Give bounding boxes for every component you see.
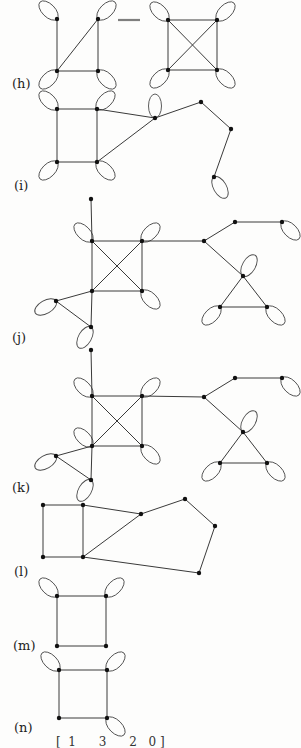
- graph-vertex: [41, 503, 45, 507]
- graph-edge: [155, 102, 201, 118]
- graph-vertex: [153, 116, 157, 120]
- graph-vertex: [215, 68, 219, 72]
- graph-vertex: [218, 305, 222, 309]
- graph-vertex: [265, 305, 269, 309]
- graph-edge: [83, 557, 199, 573]
- loop-edge: [73, 324, 96, 351]
- graph-vertex: [166, 68, 170, 72]
- graph-vertex: [55, 69, 59, 73]
- graph-vertex: [233, 376, 237, 380]
- graph-edge: [201, 102, 231, 129]
- graph-vertex: [218, 461, 222, 465]
- graph-vertex: [57, 668, 61, 672]
- graph-edge: [220, 432, 243, 463]
- graph-edge: [220, 276, 243, 307]
- graph-vertex: [55, 644, 59, 648]
- graph-edge: [91, 291, 92, 327]
- graph-vertex: [96, 69, 100, 73]
- graph-vertex: [104, 594, 108, 598]
- graph-vertex: [241, 430, 245, 434]
- graph-edge: [97, 118, 155, 162]
- graph-vertex: [202, 395, 206, 399]
- loop-edge: [32, 450, 59, 473]
- loop-edge: [208, 174, 231, 201]
- graph-i: [35, 87, 233, 201]
- graph-k: [32, 348, 301, 504]
- graph-vertex: [89, 197, 93, 201]
- graph-edge: [56, 291, 92, 301]
- graph-vertex: [89, 348, 93, 352]
- graph-vertex: [213, 524, 217, 528]
- graph-vertex: [229, 127, 233, 131]
- graph-m: [35, 574, 127, 648]
- graph-n: [37, 648, 128, 739]
- graph-j: [32, 197, 301, 351]
- textbook-page: (h) (i) (j) (k) (l) (m) (n) [ 1 3 2 0 ]: [0, 0, 301, 748]
- graph-vertex: [280, 376, 284, 380]
- graph-vertex: [280, 220, 284, 224]
- graph-edge: [91, 350, 92, 396]
- graph-vertex: [81, 555, 85, 559]
- graph-vertex: [55, 594, 59, 598]
- graph-edge: [56, 301, 91, 327]
- graph-edge: [56, 446, 92, 456]
- graph-vertex: [89, 478, 93, 482]
- graph-edge: [141, 499, 185, 514]
- graph-vertex: [90, 289, 94, 293]
- graph-vertex: [104, 644, 108, 648]
- graph-edge: [204, 378, 235, 397]
- figure-label-l: (l): [14, 564, 28, 579]
- figure-label-m: (m): [13, 638, 35, 653]
- figure-label-k: (k): [12, 480, 30, 495]
- graph-edge: [83, 514, 141, 557]
- graph-vertex: [55, 107, 59, 111]
- graph-vertex: [140, 289, 144, 293]
- graph-edge: [243, 432, 267, 463]
- graph-edge: [97, 109, 155, 118]
- graph-vertex: [81, 503, 85, 507]
- graph-vertex: [197, 571, 201, 575]
- graph-vertex: [215, 18, 219, 22]
- graph-vertex: [241, 274, 245, 278]
- graph-vertex: [265, 461, 269, 465]
- graph-vertex: [105, 668, 109, 672]
- graph-vertex: [96, 17, 100, 21]
- graph-vertex: [105, 716, 109, 720]
- graph-vertex: [140, 394, 144, 398]
- graph-vertex: [95, 107, 99, 111]
- loop-edge: [237, 252, 260, 279]
- graph-vertex: [212, 175, 216, 179]
- graph-vertex: [41, 555, 45, 559]
- graph-vertex: [233, 220, 237, 224]
- graph-edge: [204, 397, 243, 432]
- graph-vertex: [90, 444, 94, 448]
- graph-vertex: [57, 716, 61, 720]
- figure-label-h: (h): [12, 76, 31, 91]
- graph-edge: [199, 526, 215, 573]
- loop-edge: [73, 477, 96, 504]
- graph-vertex: [95, 160, 99, 164]
- graph-h: [35, 0, 238, 93]
- graph-edge: [204, 241, 243, 276]
- graph-vertex: [90, 239, 94, 243]
- graph-edge: [83, 505, 141, 514]
- graph-vertex: [90, 394, 94, 398]
- graph-vertex: [89, 325, 93, 329]
- graph-vertex: [140, 239, 144, 243]
- graph-vertex: [166, 18, 170, 22]
- graph-figures: [0, 0, 301, 748]
- graph-vertex: [54, 299, 58, 303]
- graph-edge: [56, 456, 91, 480]
- graph-edge: [214, 129, 231, 177]
- graph-vertex: [139, 512, 143, 516]
- figure-label-n: (n): [14, 720, 33, 735]
- graph-vertex: [54, 454, 58, 458]
- figure-label-j: (j): [12, 330, 26, 345]
- graph-edge: [142, 396, 204, 397]
- loop-edge: [149, 94, 162, 118]
- graph-edge: [91, 199, 92, 241]
- graph-vertex: [55, 160, 59, 164]
- loop-edge: [237, 408, 260, 435]
- graph-vertex: [55, 17, 59, 21]
- graph-edge: [243, 276, 267, 307]
